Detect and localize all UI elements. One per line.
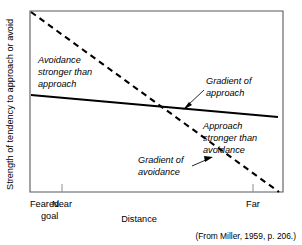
x-tick-label-feared-goal-line2: goal	[41, 211, 58, 221]
x-tick-label-far: Far	[246, 199, 260, 209]
annotation-gradient-of-approach-line1: Gradient of	[206, 76, 253, 86]
source-citation: (From Miller, 1959, p. 206.)	[195, 231, 296, 241]
approach-avoidance-conflict-chart: Strength of tendency to approach or avoi…	[0, 0, 302, 245]
annotation-gradient-of-approach-line2: approach	[206, 88, 244, 98]
annotation-avoidance-stronger-line2: stronger than	[38, 67, 92, 77]
x-tick-label-near: Near	[52, 199, 72, 209]
annotation-avoidance-stronger-line1: Avoidance	[37, 55, 81, 65]
y-axis-title: Strength of tendency to approach or avoi…	[5, 19, 15, 190]
annotation-approach-stronger-line1: Approach	[202, 121, 242, 131]
annotation-avoidance-stronger-line3: approach	[38, 79, 76, 89]
annotation-approach-stronger-line2: stronger than	[203, 133, 257, 143]
annotation-approach-stronger-line3: avoidance	[203, 145, 245, 155]
figure-container: Strength of tendency to approach or avoi…	[0, 0, 302, 245]
x-axis-title: Distance	[121, 214, 157, 224]
annotation-gradient-of-avoidance-line2: avoidance	[138, 167, 180, 177]
annotation-gradient-of-avoidance-line1: Gradient of	[138, 155, 185, 165]
